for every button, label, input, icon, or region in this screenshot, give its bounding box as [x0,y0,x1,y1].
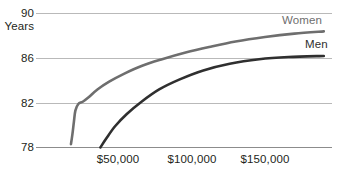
y-tick-82: 82 [0,97,34,110]
y-tick-86: 86 [0,52,34,65]
series-label-women: Women [282,14,322,27]
women-series-line [71,31,324,144]
y-tick-78: 78 [0,141,34,154]
x-tick-150000: $150,000 [225,153,305,166]
series-label-men: Men [305,38,328,51]
life-expectancy-by-income-chart: 90 Years 86 82 78 $50,000 $100,000 $150,… [0,0,346,175]
y-axis-units-label: Years [0,20,34,33]
x-tick-100000: $100,000 [152,153,232,166]
y-tick-90: 90 [0,7,34,20]
x-tick-50000: $50,000 [78,153,158,166]
